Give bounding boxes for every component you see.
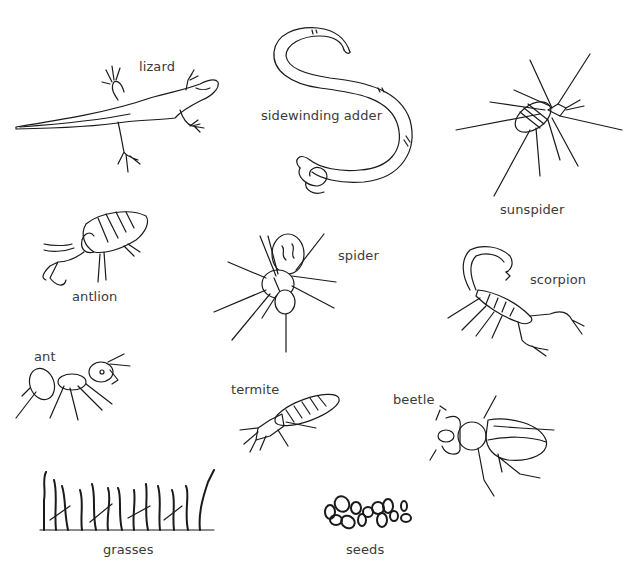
antlion-icon bbox=[43, 212, 148, 285]
grass-icon bbox=[40, 470, 214, 530]
organism-diagram: lizard sidewinding adder sunspider antli… bbox=[0, 0, 630, 574]
sunspider-icon bbox=[456, 54, 622, 196]
sunspider-label: sunspider bbox=[500, 203, 564, 216]
lizard-label: lizard bbox=[139, 60, 175, 73]
seeds-icon bbox=[325, 494, 411, 531]
lizard-icon bbox=[16, 66, 218, 172]
spider-icon bbox=[214, 234, 336, 352]
sidewinding-adder-label: sidewinding adder bbox=[261, 109, 382, 122]
scorpion-label: scorpion bbox=[530, 273, 586, 286]
antlion-label: antlion bbox=[72, 290, 117, 303]
ant-label: ant bbox=[34, 350, 56, 363]
beetle-label: beetle bbox=[393, 393, 435, 406]
termite-label: termite bbox=[231, 383, 279, 396]
seeds-label: seeds bbox=[346, 543, 384, 556]
termite-icon bbox=[240, 388, 343, 452]
scorpion-icon bbox=[448, 247, 584, 356]
grasses-label: grasses bbox=[103, 543, 154, 556]
spider-label: spider bbox=[338, 249, 379, 262]
illustrations bbox=[0, 0, 630, 574]
beetle-icon bbox=[430, 396, 554, 496]
